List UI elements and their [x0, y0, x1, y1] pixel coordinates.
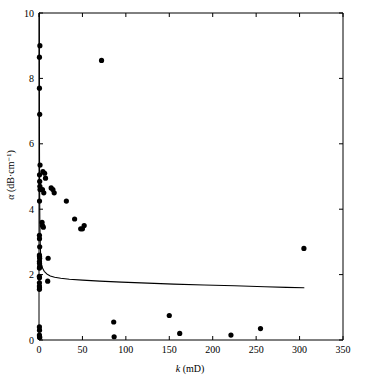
x-axis-ticks: 050100150200250300350	[37, 13, 351, 355]
data-point	[301, 246, 306, 251]
x-tick-label: 100	[118, 344, 133, 355]
x-tick-label: 200	[205, 344, 220, 355]
y-tick-label: 4	[29, 204, 34, 215]
plot-frame	[39, 13, 343, 340]
data-point	[37, 43, 42, 48]
y-axis-title: α (dB·cm⁻¹)	[5, 150, 17, 200]
data-point	[167, 313, 172, 318]
plot-canvas: 050100150200250300350 0246810 k (mD) α (…	[0, 0, 365, 381]
data-point	[43, 176, 48, 181]
data-point	[64, 198, 69, 203]
data-point	[82, 223, 87, 228]
data-point	[37, 265, 42, 270]
scatter-plot-figure: 050100150200250300350 0246810 k (mD) α (…	[0, 0, 365, 381]
x-tick-label: 50	[77, 344, 87, 355]
data-point	[42, 171, 47, 176]
data-point	[37, 244, 42, 249]
fit-curve-path	[39, 13, 304, 288]
data-point	[37, 275, 42, 280]
data-point	[228, 333, 233, 338]
x-tick-label: 150	[162, 344, 177, 355]
y-tick-label: 2	[29, 269, 34, 280]
data-point	[37, 287, 42, 292]
data-point	[37, 328, 42, 333]
data-point	[111, 319, 116, 324]
data-point	[46, 256, 51, 261]
x-tick-label: 250	[249, 344, 264, 355]
data-point	[41, 225, 46, 230]
data-point	[37, 112, 42, 117]
x-tick-label: 350	[336, 344, 351, 355]
data-point	[177, 331, 182, 336]
y-tick-label: 0	[29, 335, 34, 346]
data-point	[99, 58, 104, 63]
y-tick-label: 10	[24, 8, 34, 19]
data-point	[37, 335, 42, 340]
data-points	[37, 43, 307, 340]
y-axis-ticks: 0246810	[24, 8, 343, 346]
data-point	[37, 198, 42, 203]
data-point	[52, 190, 57, 195]
data-point	[41, 190, 46, 195]
x-tick-label: 0	[37, 344, 42, 355]
data-point	[112, 334, 117, 339]
data-point	[258, 326, 263, 331]
data-point	[37, 55, 42, 60]
y-tick-label: 8	[29, 73, 34, 84]
data-point	[72, 216, 77, 221]
y-tick-label: 6	[29, 138, 34, 149]
x-axis-title: k (mD)	[176, 363, 205, 375]
data-point	[37, 179, 42, 184]
model-fit-curve	[39, 13, 304, 288]
data-point	[37, 236, 42, 241]
data-point	[37, 86, 42, 91]
data-point	[37, 162, 42, 167]
x-tick-label: 300	[292, 344, 307, 355]
data-point	[45, 279, 50, 284]
